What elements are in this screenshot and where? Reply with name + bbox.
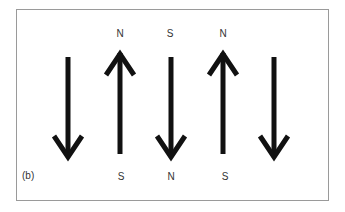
arrow-up-icon: [209, 53, 237, 154]
pole-label-south: S: [222, 171, 229, 182]
pole-label-north: N: [116, 28, 123, 39]
panel-label: (b): [22, 170, 34, 181]
arrow-up-icon: [106, 53, 134, 154]
pole-label-north: N: [219, 28, 226, 39]
pole-label-south: S: [118, 171, 125, 182]
arrow-down-icon: [54, 57, 82, 157]
arrow-down-icon: [157, 57, 185, 157]
pole-label-north: N: [167, 171, 174, 182]
arrow-down-icon: [260, 57, 288, 157]
pole-label-south: S: [167, 28, 174, 39]
